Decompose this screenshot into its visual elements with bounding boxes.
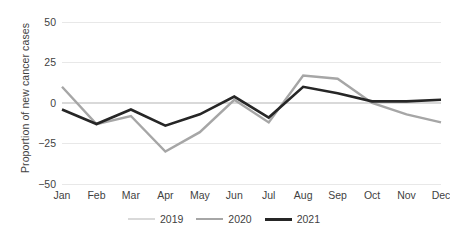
x-tick-label: Sep (328, 189, 347, 201)
legend-label: 2021 (297, 214, 320, 225)
legend-label: 2020 (228, 214, 251, 225)
data-series-group (62, 75, 441, 151)
x-tick-label: Aug (294, 189, 313, 201)
x-tick-label: Feb (87, 189, 105, 201)
x-tick-label: Jan (54, 189, 71, 201)
x-tick-label: Jul (262, 189, 275, 201)
legend-item-2019[interactable]: 2019 (128, 214, 183, 225)
x-tick-label: Nov (397, 189, 416, 201)
legend-item-2020[interactable]: 2020 (196, 214, 251, 225)
legend-item-2021[interactable]: 2021 (265, 214, 320, 225)
legend-swatch-icon (196, 218, 223, 220)
x-tick-label: Jun (226, 189, 243, 201)
x-tick-label: Apr (157, 189, 173, 201)
legend-swatch-icon (265, 218, 292, 221)
x-tick-label: Dec (432, 189, 450, 201)
x-tick-label: May (190, 189, 210, 201)
legend-swatch-icon (128, 218, 155, 220)
x-tick-label: Oct (364, 189, 380, 201)
chart-legend: 2019 2020 2021 (0, 214, 448, 225)
legend-label: 2019 (160, 214, 183, 225)
x-tick-label: Mar (122, 189, 140, 201)
